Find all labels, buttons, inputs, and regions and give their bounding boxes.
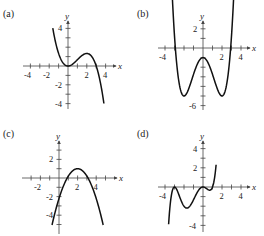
panel-label: (c) <box>3 128 14 140</box>
tick-label: 2 <box>193 163 197 173</box>
tick-label: -4 <box>189 221 197 231</box>
figure: (a) x y -4 -2 2 4 4 -2 -4 (b) x y -4 <box>0 0 264 236</box>
curve <box>169 165 217 224</box>
y-axis-label: y <box>199 131 204 141</box>
tick-label: -4 <box>159 191 167 201</box>
tick-label: -4 <box>24 70 32 80</box>
tick-label: 2 <box>49 154 53 164</box>
tick-label: -4 <box>159 52 167 62</box>
y-axis-label: y <box>64 11 69 21</box>
tick-label: 2 <box>193 24 197 34</box>
tick-label: -2 <box>46 192 53 202</box>
panel-label: (d) <box>137 128 149 140</box>
tick-label: 4 <box>239 191 244 201</box>
tick-label: -4 <box>55 99 63 109</box>
tick-label: -2 <box>34 182 41 192</box>
tick-label: 2 <box>75 182 79 192</box>
tick-label: 4 <box>239 52 244 62</box>
y-axis-label: y <box>55 131 60 141</box>
panel-b: (b) x y -4 2 4 2 -6 <box>137 0 256 111</box>
tick-label: 2 <box>220 52 224 62</box>
tick-label: -4 <box>46 210 54 220</box>
x-axis-label: x <box>118 173 123 183</box>
tick-label: 2 <box>220 191 224 201</box>
panel-c: (c) x y -2 2 4 2 -2 -4 <box>3 128 123 234</box>
panel-label: (a) <box>3 8 14 20</box>
tick-label: 4 <box>193 144 198 154</box>
x-axis-label: x <box>117 61 122 71</box>
tick-label: -6 <box>189 101 196 111</box>
panel-d: (d) x y -4 2 4 4 2 -4 <box>137 128 256 232</box>
panel-label: (b) <box>137 8 149 20</box>
tick-label: -2 <box>55 80 62 90</box>
tick-label: 4 <box>103 70 108 80</box>
x-axis-label: x <box>251 43 256 53</box>
tick-label: -2 <box>43 70 50 80</box>
panel-a: (a) x y -4 -2 2 4 4 -2 -4 <box>3 8 122 109</box>
x-axis-label: x <box>251 182 256 192</box>
y-axis-label: y <box>199 11 204 21</box>
tick-label: 2 <box>85 70 89 80</box>
tick-label: 4 <box>58 23 63 33</box>
